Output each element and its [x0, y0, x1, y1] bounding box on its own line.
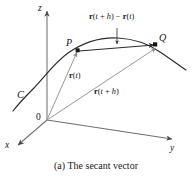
point-p-marker [76, 48, 80, 52]
curve-label-c: C [17, 90, 24, 101]
z-axis-label: z [38, 4, 42, 14]
secant-vector-label: r(t + h) − r(t) [89, 13, 134, 21]
origin-label: 0 [36, 113, 41, 123]
figure-caption: (a) The secant vector [0, 160, 192, 171]
secant-vector-figure: z y x 0 C P Q r(t) r(t + h) r(t + h) − r… [0, 0, 192, 180]
point-p-label: P [66, 38, 72, 48]
y-axis-label: y [170, 144, 174, 154]
x-axis-line [18, 120, 47, 145]
position-vector-t-plus-h-label: r(t + h) [94, 88, 119, 96]
y-axis-line [47, 120, 172, 139]
position-vector-t-label: r(t) [69, 72, 81, 80]
x-axis-label: x [5, 141, 9, 151]
point-q-label: Q [159, 33, 166, 43]
secant-vector-line [79, 45, 154, 51]
point-q-marker [153, 42, 157, 46]
